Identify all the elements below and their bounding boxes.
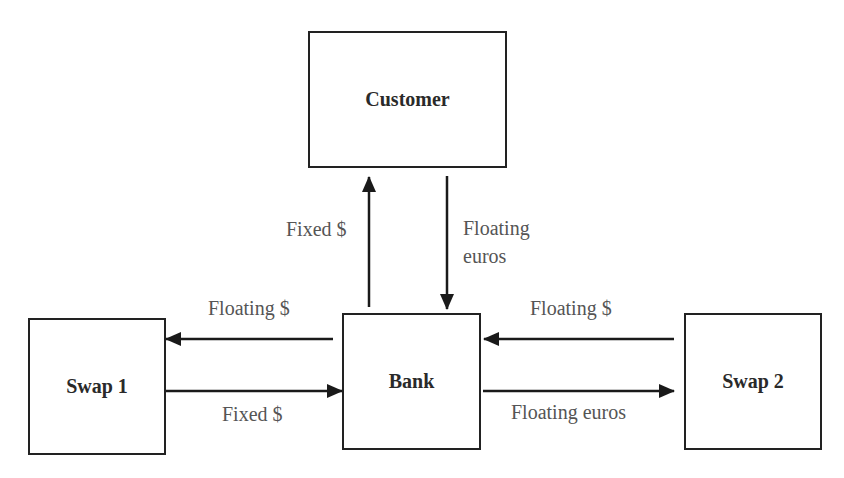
- edge-label-bank-to-swap1: Floating $: [208, 296, 290, 320]
- edge-label-customer-to-bank-line1: Floating: [463, 216, 530, 240]
- edge-label-swap1-to-bank: Fixed $: [222, 402, 283, 426]
- edge-label-swap2-to-bank: Floating $: [530, 296, 612, 320]
- edge-label-bank-to-customer: Fixed $: [286, 217, 347, 241]
- edge-label-customer-to-bank-line2: euros: [463, 244, 506, 268]
- swap1-label: Swap 1: [66, 375, 128, 398]
- bank-label: Bank: [389, 370, 435, 393]
- swap2-label: Swap 2: [722, 370, 784, 393]
- customer-node: Customer: [308, 31, 507, 168]
- swap2-node: Swap 2: [684, 313, 822, 450]
- bank-node: Bank: [342, 313, 481, 450]
- edge-label-bank-to-swap2: Floating euros: [511, 400, 626, 424]
- customer-label: Customer: [365, 88, 449, 111]
- swap1-node: Swap 1: [28, 318, 166, 455]
